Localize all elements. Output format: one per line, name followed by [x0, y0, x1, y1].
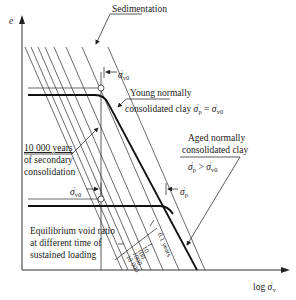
years-label-line1: 10 000 years: [24, 143, 73, 154]
sedimentation-label: Sedimentation: [112, 4, 167, 15]
aged-label-eq: σ'p > σ'v0: [188, 158, 218, 175]
equilibrium-label-line1: Equilibrium void ratio: [30, 226, 115, 237]
y-axis-label: e: [9, 16, 13, 27]
x-axis-arrow-icon: [281, 267, 290, 273]
young-label-line2: consolidated clay σ'p = σ'v0: [125, 100, 223, 117]
state-point-bottom: [98, 196, 104, 202]
y-axis-arrow-icon: [19, 15, 25, 24]
sigma-p-label: σ'p: [180, 183, 188, 200]
state-point-top: [98, 85, 104, 91]
equilibrium-label-line2: at different time of: [30, 238, 101, 249]
sigma-v0-bottom-label: σ'v0: [70, 183, 81, 200]
x-axis-label: log σ'v: [253, 278, 276, 295]
aged-label-line1: Aged normally: [188, 133, 245, 144]
years-label-line2: of secondary: [24, 155, 73, 166]
sigma-v0-top-label: σ'v0: [118, 66, 129, 83]
equilibrium-label-line3: sustained loading: [30, 250, 96, 261]
years-label-line3: consolidation: [24, 167, 75, 178]
young-label-line1: Young normally: [130, 88, 192, 99]
aged-label-line2: consolidated clay: [182, 145, 248, 156]
